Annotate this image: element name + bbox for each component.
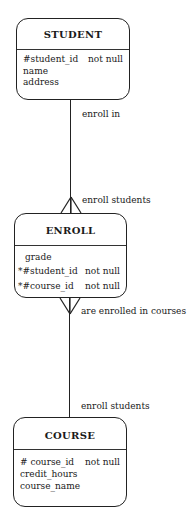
attribute-constraint: not null bbox=[85, 279, 120, 294]
attribute-name: course_name bbox=[20, 480, 80, 492]
relationship-label: enroll students bbox=[81, 401, 150, 411]
relationship-line bbox=[69, 298, 70, 418]
attribute-list: #student_id not null name address bbox=[17, 50, 129, 89]
attribute-name: address bbox=[23, 77, 59, 89]
attribute-constraint: not null bbox=[88, 54, 123, 66]
entity-course: COURSE # course_id not null credit_hours… bbox=[13, 417, 127, 507]
attribute-row: # course_id not null bbox=[20, 456, 120, 468]
attribute-row: address bbox=[23, 77, 123, 89]
attribute-row: *#course_id not null bbox=[18, 279, 120, 294]
attribute-name: # course_id bbox=[20, 456, 74, 468]
attribute-list: grade *#student_id not null *#course_id … bbox=[15, 246, 126, 294]
attribute-row: name bbox=[23, 66, 123, 78]
attribute-name: grade bbox=[25, 250, 52, 264]
attribute-name: credit_hours bbox=[20, 468, 77, 480]
attribute-constraint: not null bbox=[85, 456, 120, 468]
attribute-row: grade bbox=[18, 250, 120, 264]
attribute-row: *#student_id not null bbox=[18, 264, 120, 279]
attribute-constraint: not null bbox=[85, 264, 120, 279]
entity-title: COURSE bbox=[14, 418, 126, 450]
attribute-name: name bbox=[23, 66, 48, 78]
attribute-list: # course_id not null credit_hours course… bbox=[14, 450, 126, 492]
relationship-label: are enrolled in courses bbox=[81, 306, 186, 316]
attribute-row: #student_id not null bbox=[23, 54, 123, 66]
attribute-row: course_name bbox=[20, 480, 120, 492]
attribute-name: #student_id bbox=[23, 54, 78, 66]
attribute-name: *#student_id bbox=[18, 264, 78, 279]
attribute-name: *#course_id bbox=[18, 279, 74, 294]
attribute-row: credit_hours bbox=[20, 468, 120, 480]
entity-student: STUDENT #student_id not null name addres… bbox=[16, 18, 130, 100]
entity-enroll: ENROLL grade *#student_id not null *#cou… bbox=[14, 213, 127, 298]
entity-title: STUDENT bbox=[17, 19, 129, 50]
entity-title: ENROLL bbox=[15, 214, 126, 246]
relationship-label: enroll students bbox=[82, 195, 151, 205]
relationship-label: enroll in bbox=[82, 109, 120, 119]
